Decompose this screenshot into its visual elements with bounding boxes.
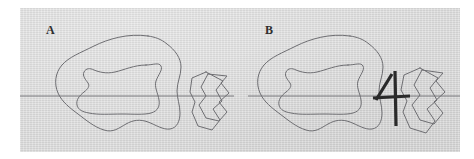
panel-b-label: B (265, 24, 273, 36)
angular-polygon-outer-contour (190, 72, 223, 130)
figure-root: A B (0, 0, 474, 159)
outer-blob-contour (56, 35, 181, 131)
angular-polygon-inner-contour (412, 70, 445, 124)
four-shaped-tick-mark (373, 71, 410, 126)
inner-blob-contour (279, 64, 364, 114)
panel-b: B (240, 8, 460, 152)
scanned-figure-plate: A B (20, 8, 460, 152)
inner-blob-contour (77, 64, 162, 114)
outer-blob-contour (258, 35, 383, 131)
panel-a-label: A (46, 24, 55, 36)
angular-polygon-inner-contour (199, 74, 229, 121)
panel-a: A (20, 8, 240, 152)
